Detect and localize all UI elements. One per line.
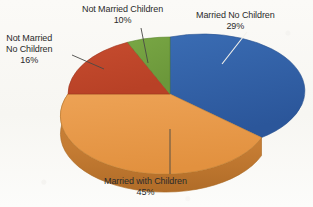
pie-slices [60, 34, 304, 174]
pie-label-married-no-children-percent: 29% [196, 21, 275, 32]
pie-label-not-married-children-text: Not Married Children [82, 4, 163, 14]
pie-chart-figure: Married No Children 29% Not Married Chil… [0, 0, 313, 207]
pie-label-not-married-children-percent: 10% [82, 15, 163, 26]
pie-label-not-married-no-children-percent: 16% [6, 55, 52, 66]
pie-label-not-married-no-children-text-line1: Not Married [6, 33, 52, 43]
pie-label-married-no-children: Married No Children 29% [196, 10, 275, 32]
pie-label-married-with-children-text: Married with Children [104, 176, 187, 186]
pie-label-not-married-children: Not Married Children 10% [82, 4, 163, 26]
pie-label-married-no-children-text: Married No Children [196, 10, 275, 20]
pie-label-not-married-no-children: Not Married No Children 16% [6, 33, 52, 66]
pie-label-married-with-children: Married with Children 45% [104, 176, 187, 198]
pie-label-married-with-children-percent: 45% [104, 187, 187, 198]
pie-label-not-married-no-children-text-line2: No Children [6, 44, 52, 55]
